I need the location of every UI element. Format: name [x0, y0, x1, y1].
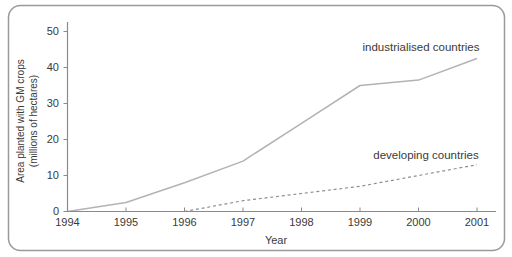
x-tick-label: 1995	[114, 216, 138, 228]
y-axis-title-line1: Area planted with GM crops	[15, 59, 26, 182]
y-tick-label: 20	[47, 133, 59, 145]
chart-figure: 1994199519961997199819992000200101020304…	[0, 0, 512, 257]
series-label-developing-countries: developing countries	[373, 149, 479, 161]
x-axis-title: Year	[265, 234, 288, 246]
x-tick-label: 2001	[465, 216, 489, 228]
series-line-industrialised-countries	[68, 59, 478, 212]
series-line-developing-countries	[185, 165, 478, 212]
x-tick-label: 2000	[406, 216, 430, 228]
x-tick-label: 1996	[172, 216, 196, 228]
y-axis-title: Area planted with GM crops (millions of …	[15, 59, 39, 182]
x-tick-label: 1999	[348, 216, 372, 228]
y-tick-label: 10	[47, 169, 59, 181]
ticks-layer: 1994199519961997199819992000200101020304…	[47, 25, 489, 228]
y-tick-label: 50	[47, 25, 59, 37]
x-tick-label: 1997	[231, 216, 255, 228]
series-label-industrialised-countries: industrialised countries	[363, 41, 480, 53]
line-chart: 1994199519961997199819992000200101020304…	[0, 0, 512, 257]
series-layer	[68, 59, 478, 212]
x-tick-label: 1998	[289, 216, 313, 228]
y-tick-label: 0	[53, 205, 59, 217]
y-tick-label: 30	[47, 97, 59, 109]
x-tick-label: 1994	[55, 216, 79, 228]
y-tick-label: 40	[47, 61, 59, 73]
y-axis-title-line2: (millions of hectares)	[28, 75, 39, 167]
